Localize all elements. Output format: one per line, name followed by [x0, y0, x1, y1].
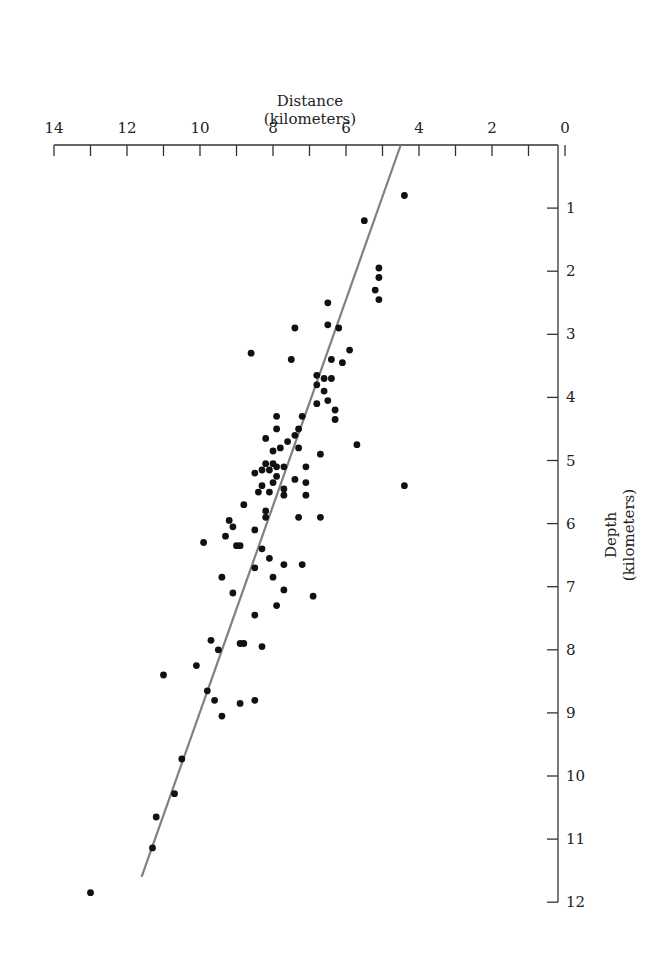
data-point — [292, 325, 299, 332]
data-point — [401, 192, 408, 199]
data-point — [313, 400, 320, 407]
data-point — [230, 523, 237, 530]
data-point — [313, 372, 320, 379]
data-point — [332, 407, 339, 414]
data-point — [273, 413, 280, 420]
data-point — [240, 640, 247, 647]
data-point — [299, 413, 306, 420]
data-point — [266, 467, 273, 474]
data-point — [219, 574, 226, 581]
data-point — [160, 672, 167, 679]
data-point — [178, 756, 185, 763]
x-tick-label: 14 — [44, 119, 63, 137]
x-tick-label: 6 — [341, 119, 351, 137]
data-point — [270, 479, 277, 486]
data-point — [332, 416, 339, 423]
data-point — [204, 687, 211, 694]
data-point — [376, 265, 383, 272]
data-point — [292, 476, 299, 483]
data-point — [262, 508, 269, 515]
x-tick-label: 12 — [117, 119, 136, 137]
data-point — [251, 697, 258, 704]
data-point — [321, 388, 328, 395]
data-point — [208, 637, 215, 644]
y-tick-label: 7 — [566, 578, 576, 596]
data-point — [284, 438, 291, 445]
data-point — [324, 397, 331, 404]
x-tick-label: 4 — [414, 119, 424, 137]
data-point — [310, 593, 317, 600]
data-point — [376, 274, 383, 281]
data-point — [292, 432, 299, 439]
x-axis-title-line1: Distance — [277, 92, 344, 110]
y-tick-label: 10 — [566, 767, 585, 785]
data-point — [193, 662, 200, 669]
data-point — [226, 517, 233, 524]
data-point — [251, 470, 258, 477]
y-axis: 123456789101112 — [547, 145, 585, 911]
data-point — [328, 375, 335, 382]
data-point — [281, 486, 288, 493]
data-point — [354, 441, 361, 448]
data-point — [230, 590, 237, 597]
x-tick-label: 0 — [560, 119, 570, 137]
data-point — [303, 492, 310, 499]
data-point — [259, 643, 266, 650]
data-point — [211, 697, 218, 704]
data-point — [222, 533, 229, 540]
data-point — [339, 359, 346, 366]
y-axis-title-line2: (kilometers) — [620, 489, 638, 581]
data-point — [273, 473, 280, 480]
data-point — [324, 321, 331, 328]
data-point — [266, 489, 273, 496]
x-tick-label: 8 — [268, 119, 278, 137]
data-point — [273, 426, 280, 433]
y-tick-label: 4 — [566, 388, 576, 406]
data-point — [299, 561, 306, 568]
data-point — [317, 451, 324, 458]
data-point — [200, 539, 207, 546]
y-tick-label: 6 — [566, 515, 576, 533]
fit-line — [142, 145, 401, 877]
y-tick-label: 3 — [566, 325, 576, 343]
data-point — [295, 426, 302, 433]
data-point — [346, 347, 353, 354]
data-point — [259, 467, 266, 474]
data-point — [288, 356, 295, 363]
y-tick-label: 8 — [566, 641, 576, 659]
data-point — [262, 460, 269, 467]
data-point — [277, 445, 284, 452]
data-point — [248, 350, 255, 357]
data-point — [303, 463, 310, 470]
data-point — [240, 501, 247, 508]
data-point — [281, 561, 288, 568]
data-point — [372, 287, 379, 294]
data-point — [251, 564, 258, 571]
scatter-chart: Distance (kilometers) Depth (kilometers)… — [0, 0, 662, 962]
data-point — [237, 542, 244, 549]
data-point — [259, 482, 266, 489]
data-point — [270, 448, 277, 455]
data-point — [273, 602, 280, 609]
data-point — [281, 587, 288, 594]
data-point — [303, 479, 310, 486]
data-point — [376, 296, 383, 303]
data-point — [295, 445, 302, 452]
y-tick-label: 5 — [566, 452, 576, 470]
data-point — [321, 375, 328, 382]
data-point — [171, 790, 178, 797]
y-tick-label: 12 — [566, 893, 585, 911]
data-point — [259, 545, 266, 552]
data-point — [317, 514, 324, 521]
data-point — [328, 356, 335, 363]
y-tick-label: 2 — [566, 262, 576, 280]
data-point — [324, 299, 331, 306]
data-point — [237, 700, 244, 707]
data-point — [270, 574, 277, 581]
data-point — [335, 325, 342, 332]
data-point — [281, 492, 288, 499]
data-point — [251, 527, 258, 534]
regression-line — [142, 145, 401, 877]
data-point — [149, 845, 156, 852]
y-tick-label: 1 — [566, 199, 576, 217]
